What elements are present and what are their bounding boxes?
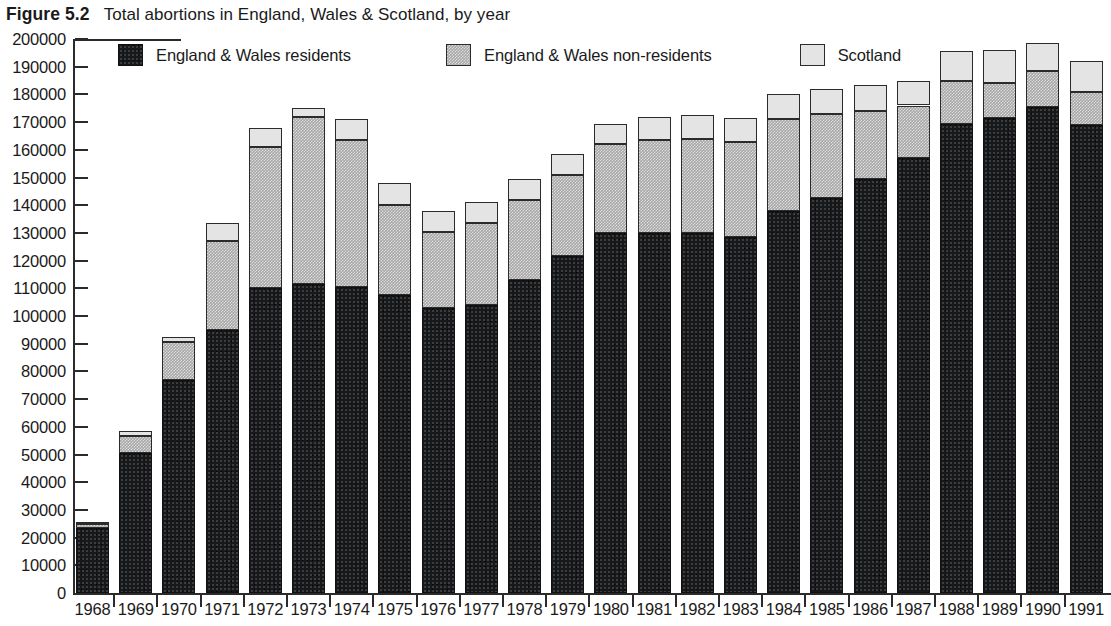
bar-1989[interactable] — [983, 39, 1016, 593]
y-axis-label: 120000 — [0, 253, 66, 269]
y-axis-label: 10000 — [0, 557, 66, 573]
bar-segment-residents — [292, 284, 325, 593]
residents-swatch-icon — [118, 44, 143, 66]
bar-segment-residents — [854, 179, 887, 593]
y-axis-label: 40000 — [0, 474, 66, 490]
bar-1980[interactable] — [594, 39, 627, 593]
bar-segment-residents — [335, 287, 368, 593]
bar-1987[interactable] — [897, 39, 930, 593]
y-axis-label: 80000 — [0, 363, 66, 379]
y-axis-label: 160000 — [0, 142, 66, 158]
bar-1969[interactable] — [119, 39, 152, 593]
scotland-swatch-icon — [800, 44, 825, 66]
y-axis-label: 140000 — [0, 197, 66, 213]
bar-segment-scotland — [1026, 43, 1059, 71]
bar-segment-residents — [249, 288, 282, 593]
bar-segment-residents — [465, 305, 498, 593]
legend-label-scotland: Scotland — [838, 46, 901, 65]
legend-item-non-residents: England & Wales non-residents — [446, 44, 712, 66]
x-axis-tick — [934, 593, 936, 607]
y-axis-label: 60000 — [0, 419, 66, 435]
bar-segment-residents — [1070, 125, 1103, 593]
x-axis-tick — [156, 593, 158, 607]
bar-segment-scotland — [854, 85, 887, 111]
bar-segment-scotland — [594, 124, 627, 145]
bar-1977[interactable] — [465, 39, 498, 593]
x-axis-tick — [113, 593, 115, 607]
y-axis-label: 170000 — [0, 114, 66, 130]
x-axis-tick — [588, 593, 590, 607]
x-axis-tick — [459, 593, 461, 607]
x-axis-tick — [416, 593, 418, 607]
bar-1986[interactable] — [854, 39, 887, 593]
bar-segment-non-residents — [162, 342, 195, 379]
y-axis-label: 200000 — [0, 31, 66, 47]
bar-segment-scotland — [76, 522, 109, 524]
bar-segment-non-residents — [724, 142, 757, 238]
bar-segment-non-residents — [681, 139, 714, 233]
bar-segment-residents — [940, 124, 973, 594]
y-axis-label: 70000 — [0, 391, 66, 407]
bar-1981[interactable] — [638, 39, 671, 593]
figure-label: Figure 5.2 — [6, 4, 90, 25]
bar-1979[interactable] — [551, 39, 584, 593]
bar-1983[interactable] — [724, 39, 757, 593]
bar-segment-residents — [724, 237, 757, 593]
bar-1975[interactable] — [378, 39, 411, 593]
bar-segment-non-residents — [249, 147, 282, 288]
bar-segment-residents — [594, 233, 627, 593]
bar-1978[interactable] — [508, 39, 541, 593]
bar-1991[interactable] — [1070, 39, 1103, 593]
bar-segment-non-residents — [594, 144, 627, 233]
bar-segment-non-residents — [551, 175, 584, 257]
y-axis-label: 0 — [0, 585, 66, 601]
bar-segment-non-residents — [767, 119, 800, 210]
bar-segment-non-residents — [1070, 92, 1103, 125]
y-axis-label: 90000 — [0, 336, 66, 352]
bar-segment-residents — [76, 528, 109, 593]
bar-segment-scotland — [638, 117, 671, 141]
x-axis-line — [73, 593, 1111, 595]
bar-segment-scotland — [724, 118, 757, 142]
bar-segment-scotland — [206, 223, 239, 241]
bar-group — [74, 39, 1111, 593]
bar-1984[interactable] — [767, 39, 800, 593]
bar-1976[interactable] — [422, 39, 455, 593]
bar-segment-residents — [422, 308, 455, 593]
bar-1990[interactable] — [1026, 39, 1059, 593]
bar-segment-residents — [767, 211, 800, 593]
bar-segment-residents — [897, 158, 930, 593]
bar-segment-scotland — [810, 89, 843, 114]
bar-1970[interactable] — [162, 39, 195, 593]
bar-segment-non-residents — [422, 232, 455, 308]
bar-1988[interactable] — [940, 39, 973, 593]
chart-page: Figure 5.2 Total abortions in England, W… — [0, 0, 1111, 626]
x-axis-tick — [372, 593, 374, 607]
bar-1982[interactable] — [681, 39, 714, 593]
x-axis-tick — [804, 593, 806, 607]
bar-segment-non-residents — [983, 83, 1016, 118]
bar-segment-scotland — [767, 94, 800, 119]
bar-segment-scotland — [465, 202, 498, 223]
x-axis-tick — [286, 593, 288, 607]
bar-1985[interactable] — [810, 39, 843, 593]
bar-1972[interactable] — [249, 39, 282, 593]
y-axis-label: 50000 — [0, 447, 66, 463]
bar-1968[interactable] — [76, 39, 109, 593]
y-axis-label: 190000 — [0, 59, 66, 75]
bar-1973[interactable] — [292, 39, 325, 593]
bar-1971[interactable] — [206, 39, 239, 593]
x-axis-tick — [1064, 593, 1066, 607]
bar-1974[interactable] — [335, 39, 368, 593]
bar-segment-scotland — [681, 115, 714, 139]
bar-segment-residents — [119, 453, 152, 593]
chart-title-row: Figure 5.2 Total abortions in England, W… — [6, 4, 510, 25]
y-axis-label: 150000 — [0, 170, 66, 186]
bar-segment-non-residents — [292, 117, 325, 285]
bar-segment-residents — [206, 330, 239, 593]
bar-segment-residents — [162, 380, 195, 593]
bar-segment-non-residents — [1026, 71, 1059, 107]
bar-segment-residents — [1026, 107, 1059, 593]
bar-segment-scotland — [292, 108, 325, 116]
x-axis-tick — [761, 593, 763, 607]
